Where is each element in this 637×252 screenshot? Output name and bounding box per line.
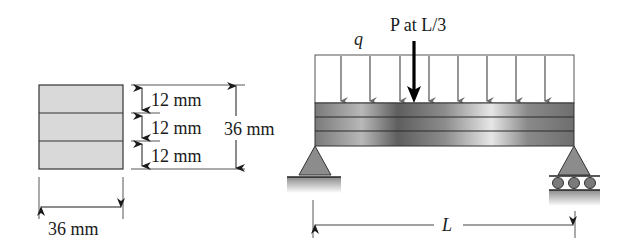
distributed-load-arrows (341, 56, 545, 101)
span-label: L (442, 216, 452, 234)
roller-support (549, 146, 600, 206)
point-load-label: P at L/3 (390, 16, 446, 34)
total-height-label: 36 mm (224, 120, 275, 138)
roller-1 (553, 178, 564, 189)
laminated-beam (315, 103, 574, 146)
layer-2-thickness-label: 12 mm (151, 119, 202, 137)
cross-section-rect (39, 85, 123, 169)
layer-3-thickness-label: 12 mm (151, 147, 202, 165)
cross-section (39, 85, 245, 219)
roller-2 (569, 178, 580, 189)
distributed-load-box (315, 55, 574, 103)
pin-support (287, 146, 341, 193)
width-label: 36 mm (48, 220, 99, 238)
laminated-beam-figure: 12 mm 12 mm 12 mm 36 mm 36 mm q P at L/3… (0, 0, 637, 252)
distributed-load-label: q (354, 30, 363, 48)
beam-diagram (287, 41, 600, 238)
layer-1-thickness-label: 12 mm (151, 91, 202, 109)
roller-3 (585, 178, 596, 189)
figure-drawing (0, 0, 637, 252)
